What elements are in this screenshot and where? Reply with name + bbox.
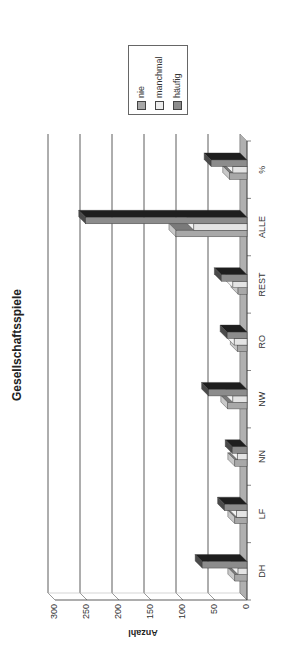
y-tick-label: 200 bbox=[113, 604, 123, 634]
legend-label: häufig bbox=[172, 73, 182, 98]
y-tick-label: 250 bbox=[81, 604, 91, 634]
x-category-label: NW bbox=[257, 379, 267, 419]
bar-REST-häufig bbox=[214, 268, 247, 282]
y-tick-label: 150 bbox=[145, 604, 155, 634]
legend-swatch-manchmal bbox=[155, 101, 164, 110]
legend-swatch-nie bbox=[137, 101, 146, 110]
x-category-label: NN bbox=[257, 437, 267, 477]
x-category-label: REST bbox=[257, 264, 267, 304]
bar-NW-häufig bbox=[202, 382, 247, 396]
y-tick-label: 100 bbox=[177, 604, 187, 634]
bar-DH-häufig bbox=[195, 555, 247, 569]
x-category-label: LF bbox=[257, 494, 267, 534]
bar-ALLE-häufig bbox=[79, 210, 247, 224]
bar-%-häufig bbox=[204, 153, 247, 167]
legend-label: nie bbox=[136, 86, 146, 98]
legend-item-manchmal: manchmal bbox=[150, 50, 168, 110]
chart-stage: Gesellschaftsspiele Anzahl nie manchmal … bbox=[0, 0, 284, 661]
y-tick-label: 50 bbox=[209, 604, 219, 634]
x-category-label: RO bbox=[257, 322, 267, 362]
legend: nie manchmal häufig bbox=[128, 45, 188, 115]
x-category-label: % bbox=[257, 150, 267, 190]
y-tick-label: 300 bbox=[49, 604, 59, 634]
legend-item-haeufig: häufig bbox=[168, 50, 186, 110]
legend-item-nie: nie bbox=[132, 50, 150, 110]
x-category-label: DH bbox=[257, 551, 267, 591]
legend-swatch-haeufig bbox=[173, 101, 182, 110]
x-category-label: ALLE bbox=[257, 207, 267, 247]
y-tick-label: 0 bbox=[241, 604, 251, 634]
legend-label: manchmal bbox=[154, 56, 164, 98]
